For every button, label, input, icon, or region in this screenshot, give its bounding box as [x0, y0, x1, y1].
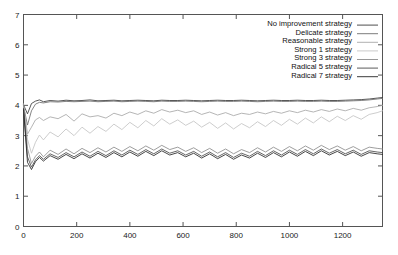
- x-tick-label: 400: [123, 231, 137, 240]
- x-tick-label: 600: [176, 231, 190, 240]
- series-group: [24, 97, 383, 169]
- legend-item: Radical 7 strategy: [291, 71, 378, 80]
- x-tick-label: 1200: [334, 231, 352, 240]
- series-line-3: [24, 107, 383, 154]
- chart-canvas: 01234567020040060080010001200No improvem…: [0, 0, 398, 255]
- y-tick-label: 3: [15, 132, 20, 141]
- line-chart: 01234567020040060080010001200No improvem…: [0, 0, 398, 255]
- series-line-5: [24, 108, 383, 167]
- x-tick-label: 0: [21, 231, 26, 240]
- y-tick-label: 5: [15, 71, 20, 80]
- x-tick-label: 800: [230, 231, 244, 240]
- y-tick-label: 0: [15, 223, 20, 232]
- y-tick-label: 6: [15, 41, 20, 50]
- legend-item-label: Radical 7 strategy: [291, 71, 352, 80]
- y-tick-label: 4: [15, 101, 20, 110]
- series-line-2: [24, 104, 383, 134]
- y-tick-label: 1: [15, 192, 20, 201]
- x-tick-label: 1000: [281, 231, 299, 240]
- x-tick-label: 200: [70, 231, 84, 240]
- y-tick-label: 7: [15, 11, 20, 20]
- y-tick-label: 2: [15, 162, 20, 171]
- legend: No improvement strategyDelicate strategy…: [267, 19, 378, 80]
